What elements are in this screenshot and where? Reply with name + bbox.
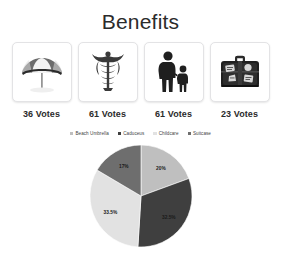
legend-swatch-icon [118, 132, 121, 135]
benefit-card-childcare[interactable]: 61 Votes [144, 42, 204, 119]
benefit-cards-row: 36 Votes [0, 42, 281, 119]
legend-item-suitcase[interactable]: Suitcase [188, 131, 211, 136]
childcare-icon [149, 47, 199, 97]
legend-label: Suitcase [193, 131, 211, 136]
legend-item-childcare[interactable]: Childcare [153, 131, 178, 136]
benefit-card-tile[interactable] [12, 42, 72, 102]
benefit-card-beach-umbrella[interactable]: 36 Votes [12, 42, 72, 119]
pie-chart: 20%32.5%33.5%17% [0, 141, 281, 251]
legend-item-beach-umbrella[interactable]: Beach Umbrella [70, 131, 109, 136]
legend-label: Beach Umbrella [75, 131, 108, 136]
pie-slice-label: 32.5% [162, 215, 176, 220]
beach-umbrella-icon [17, 47, 67, 97]
votes-label: 23 Votes [221, 109, 258, 119]
pie-slice-label: 33.5% [103, 210, 117, 215]
benefit-card-tile[interactable] [210, 42, 270, 102]
pie-slice-label: 20% [156, 166, 166, 171]
legend-label: Childcare [159, 131, 179, 136]
votes-label: 61 Votes [155, 109, 192, 119]
benefit-card-tile[interactable] [78, 42, 138, 102]
clipped-header-strip [0, 0, 281, 9]
pie-slice-label: 17% [119, 164, 129, 169]
legend-swatch-icon [153, 132, 156, 135]
caduceus-icon [83, 47, 133, 97]
votes-label: 61 Votes [89, 109, 126, 119]
benefit-card-caduceus[interactable]: 61 Votes [78, 42, 138, 119]
votes-label: 36 Votes [23, 109, 60, 119]
benefit-card-tile[interactable] [144, 42, 204, 102]
pie-chart-svg: 20%32.5%33.5%17% [86, 141, 196, 251]
legend-item-caduceus[interactable]: Caduceus [118, 131, 144, 136]
suitcase-icon [215, 47, 265, 97]
legend-label: Caduceus [123, 131, 144, 136]
chart-legend: Beach Umbrella Caduceus Childcare Suitca… [0, 131, 281, 136]
legend-swatch-icon [70, 132, 73, 135]
benefit-card-suitcase[interactable]: 23 Votes [210, 42, 270, 119]
legend-swatch-icon [188, 132, 191, 135]
